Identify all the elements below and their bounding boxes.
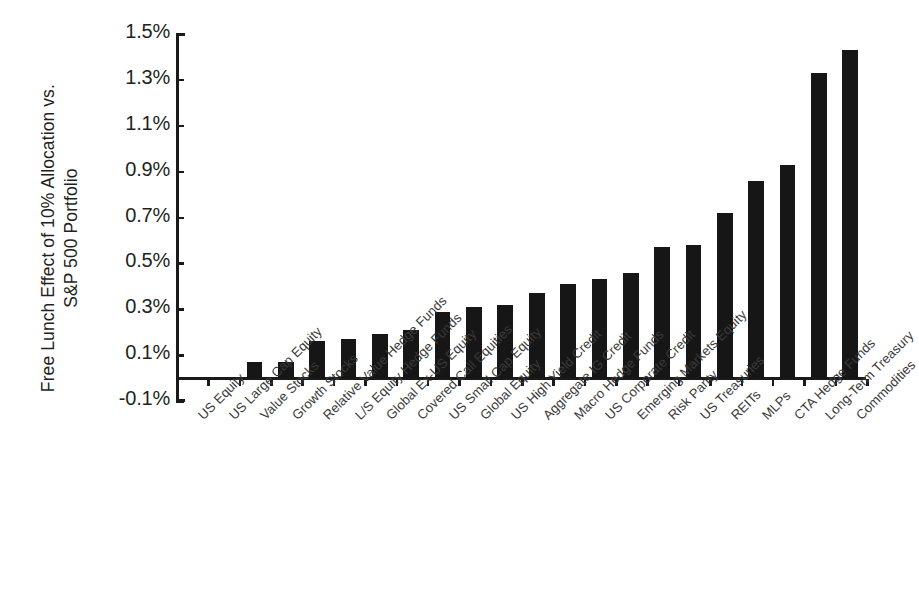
y-axis-tick-label: 0.1% <box>100 341 170 364</box>
bar <box>247 362 263 378</box>
y-axis-title: Free Lunch Effect of 10% Allocation vs. … <box>37 28 83 448</box>
bar <box>717 213 733 378</box>
y-axis-tick-label: 1.3% <box>100 66 170 89</box>
y-axis-tick-label: 0.3% <box>100 295 170 318</box>
bar <box>780 165 796 378</box>
y-axis-tick-label: -0.1% <box>100 387 170 410</box>
bar <box>811 73 827 378</box>
y-axis-tick-label: 0.7% <box>100 204 170 227</box>
bar <box>842 50 858 378</box>
y-axis-tick-label: 0.5% <box>100 249 170 272</box>
bar <box>748 181 764 378</box>
y-axis-tick-labels: 1.5%1.3%1.1%0.9%0.7%0.5%0.3%0.1%-0.1% <box>96 0 170 602</box>
y-axis-tick-label: 1.5% <box>100 20 170 43</box>
y-axis-tick-label: 0.9% <box>100 158 170 181</box>
y-axis-tick-label: 1.1% <box>100 112 170 135</box>
